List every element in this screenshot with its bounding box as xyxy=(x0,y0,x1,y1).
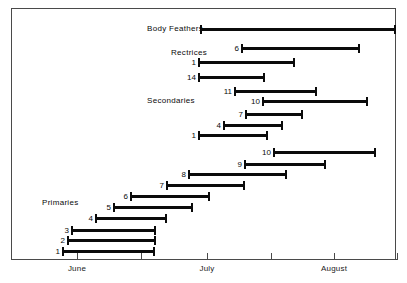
molt-timing-chart: JuneJulyAugust 6114111074110987654321 Bo… xyxy=(0,0,407,283)
bar-label: 1 xyxy=(56,247,62,256)
bar-start-cap xyxy=(62,247,64,256)
bar-end-cap xyxy=(281,121,283,130)
x-axis-tick-label: July xyxy=(199,264,214,273)
bar-span xyxy=(62,250,155,253)
bar-label: 6 xyxy=(235,44,241,53)
bar-start-cap xyxy=(95,214,97,223)
bar-end-cap xyxy=(374,148,376,157)
bar-start-cap xyxy=(262,97,264,106)
bar-end-cap xyxy=(266,131,268,140)
bar-label: 7 xyxy=(160,181,166,190)
bar-span xyxy=(262,100,368,103)
bar-start-cap xyxy=(71,226,73,235)
bar-end-cap xyxy=(366,97,368,106)
bar-end-cap xyxy=(285,170,287,179)
bar-row: 11 xyxy=(0,87,407,97)
bar-row: 8 xyxy=(0,170,407,180)
bar-span xyxy=(245,113,303,116)
bar-start-cap xyxy=(244,160,246,169)
bar-end-cap xyxy=(243,181,245,190)
bar-row: 1 xyxy=(0,58,407,68)
bar-end-cap xyxy=(293,58,295,67)
bar-start-cap xyxy=(241,44,243,53)
bar-span xyxy=(198,134,268,137)
bar-span xyxy=(234,90,317,93)
bar-start-cap xyxy=(198,131,200,140)
bar-start-cap xyxy=(223,121,225,130)
bar-span xyxy=(166,184,245,187)
bar-end-cap xyxy=(315,87,317,96)
bar-end-cap xyxy=(208,192,210,201)
bar-row: 1 xyxy=(0,131,407,141)
bar-label: 1 xyxy=(192,131,198,140)
bar-span xyxy=(244,163,326,166)
bar-span xyxy=(241,47,360,50)
x-axis-line xyxy=(11,259,397,260)
bar-end-cap xyxy=(263,73,265,82)
bar-label: 11 xyxy=(224,87,234,96)
bar-label: 8 xyxy=(182,170,188,179)
bar-span xyxy=(198,61,295,64)
bar-start-cap xyxy=(130,192,132,201)
bar-row: 4 xyxy=(0,214,407,224)
bar-label: 4 xyxy=(89,214,95,223)
bar-row: 14 xyxy=(0,73,407,83)
x-axis-tick-label: August xyxy=(321,264,347,273)
bar-end-cap xyxy=(394,25,396,34)
bar-end-cap xyxy=(301,110,303,119)
bar-start-cap xyxy=(198,73,200,82)
bar-start-cap xyxy=(67,236,69,245)
bar-end-cap xyxy=(358,44,360,53)
group-label-rectrices: Rectrices xyxy=(171,48,207,57)
bar-span xyxy=(67,239,156,242)
bar-label: 7 xyxy=(239,110,245,119)
bar-label: 9 xyxy=(238,160,244,169)
bar-end-cap xyxy=(165,214,167,223)
bar-row: 3 xyxy=(0,226,407,236)
bar-start-cap xyxy=(273,148,275,157)
bar-start-cap xyxy=(188,170,190,179)
bar-row: 7 xyxy=(0,110,407,120)
bar-span xyxy=(130,195,210,198)
bar-label: 6 xyxy=(124,192,130,201)
bar-row: 1 xyxy=(0,247,407,257)
bar-end-cap xyxy=(191,203,193,212)
bar-end-cap xyxy=(154,226,156,235)
bar-row: 7 xyxy=(0,181,407,191)
bar-end-cap xyxy=(324,160,326,169)
bar-row: 2 xyxy=(0,236,407,246)
bar-row: 9 xyxy=(0,160,407,170)
x-axis-tick-label: June xyxy=(68,264,86,273)
bar-row xyxy=(0,25,407,35)
bar-label: 4 xyxy=(217,121,223,130)
bar-end-cap xyxy=(153,247,155,256)
bar-start-cap xyxy=(198,58,200,67)
bar-label: 2 xyxy=(61,236,67,245)
bar-label: 5 xyxy=(107,203,113,212)
bar-start-cap xyxy=(166,181,168,190)
bar-span xyxy=(113,206,193,209)
bar-row: 10 xyxy=(0,148,407,158)
bar-label: 1 xyxy=(192,58,198,67)
bar-span xyxy=(223,124,283,127)
bar-span xyxy=(198,76,265,79)
bar-start-cap xyxy=(245,110,247,119)
bar-span xyxy=(71,229,156,232)
bar-end-cap xyxy=(154,236,156,245)
group-label-primaries: Primaries xyxy=(42,198,78,207)
bar-label: 14 xyxy=(187,73,198,82)
bar-label: 10 xyxy=(262,148,273,157)
bar-row: 10 xyxy=(0,97,407,107)
bar-row: 4 xyxy=(0,121,407,131)
bar-span xyxy=(273,151,376,154)
bar-span xyxy=(200,28,396,31)
bar-label: 10 xyxy=(251,97,262,106)
bar-start-cap xyxy=(234,87,236,96)
group-label-secondaries: Secondaries xyxy=(147,96,195,105)
group-label-body-feathers: Body Feathers xyxy=(147,24,203,33)
bar-span xyxy=(188,173,287,176)
bar-start-cap xyxy=(113,203,115,212)
bar-span xyxy=(95,217,167,220)
bar-label: 3 xyxy=(65,226,71,235)
